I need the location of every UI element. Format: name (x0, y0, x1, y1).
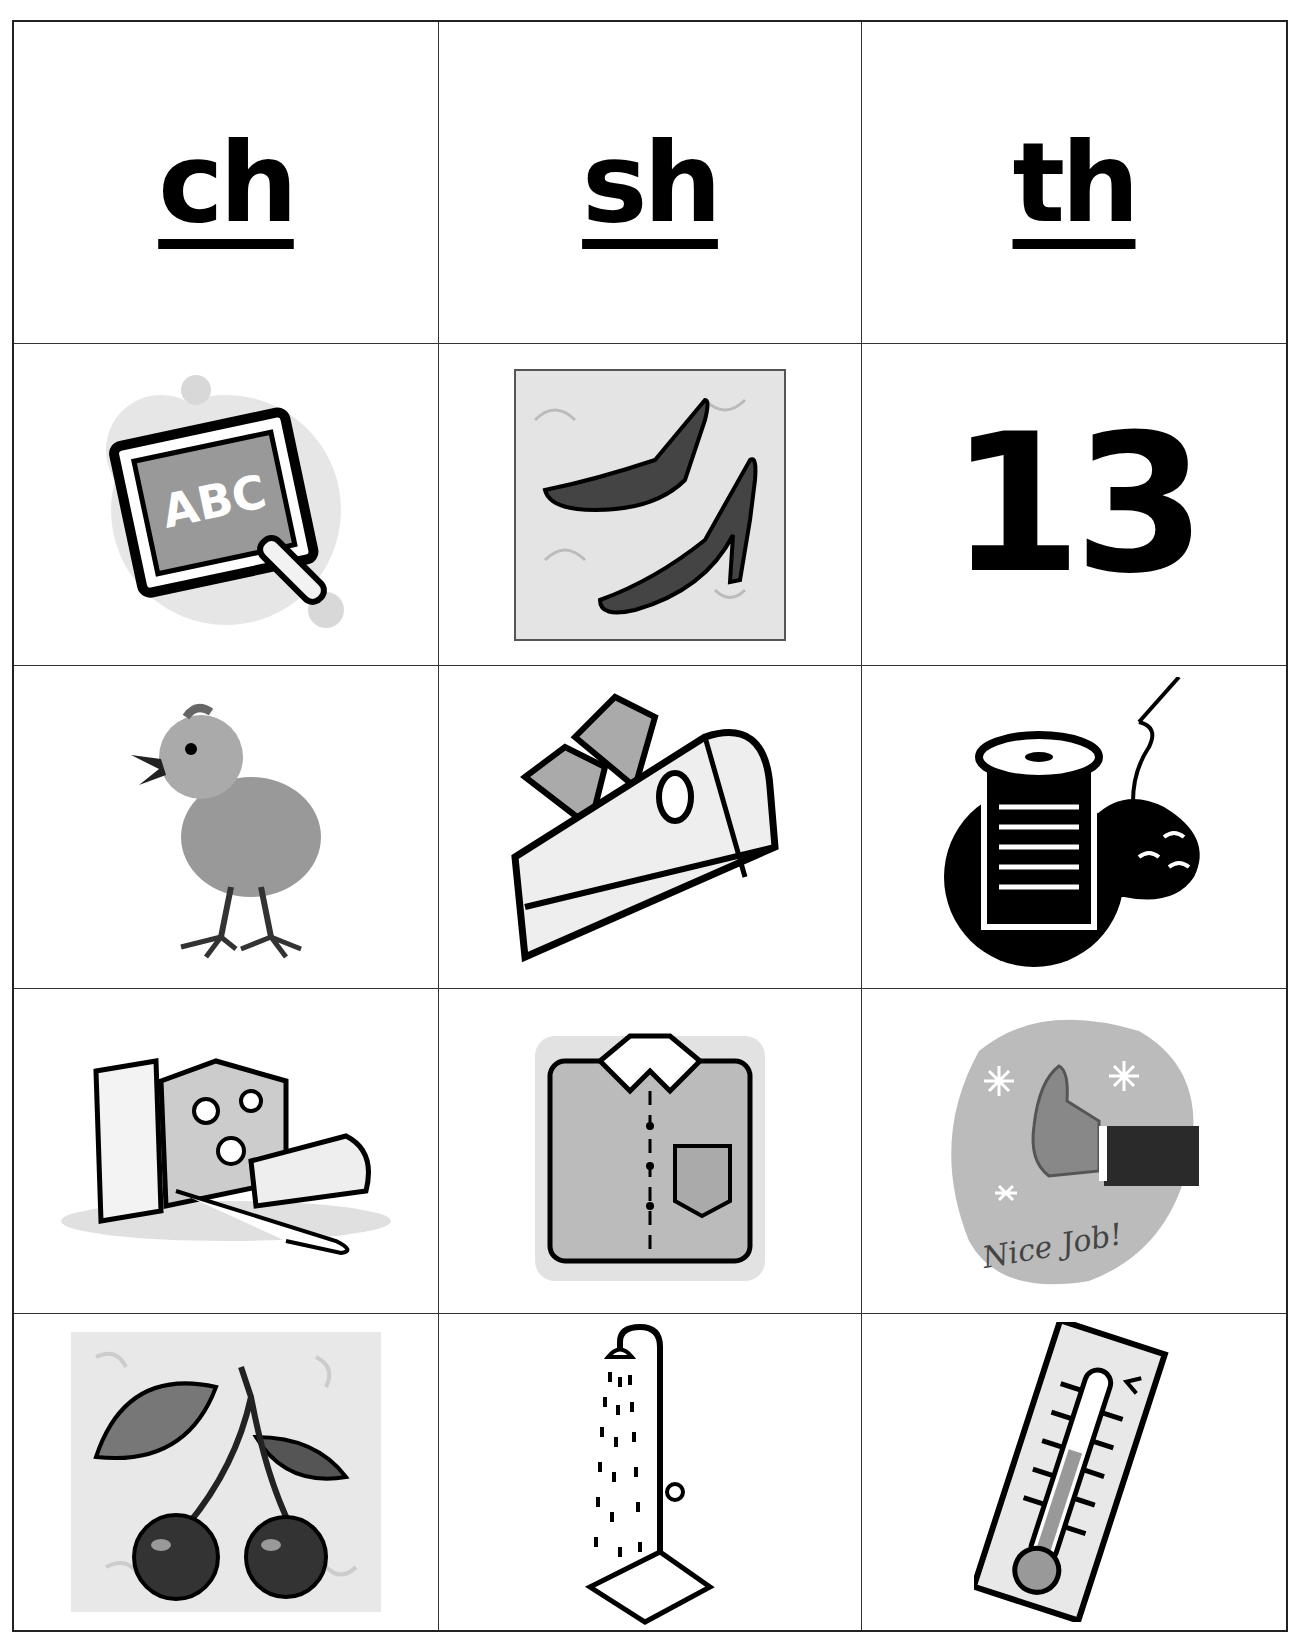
number-thirteen: 13 (950, 394, 1198, 615)
shirt-icon (530, 1016, 770, 1286)
digraph-heading-th: th (1013, 128, 1136, 238)
digraph-heading-ch: ch (158, 128, 294, 238)
picture-cell-thirteen: 13 (862, 344, 1286, 666)
picture-cell-shower (439, 1314, 862, 1630)
cherries-icon (66, 1327, 386, 1617)
thread-spool-icon (924, 677, 1224, 977)
shoes-icon (505, 360, 795, 650)
cheese-icon (56, 1041, 396, 1261)
chalkboard-icon: ABC (76, 360, 376, 650)
picture-cell-shoes (439, 344, 862, 666)
chick-icon (111, 687, 341, 967)
header-cell-th: th (862, 22, 1286, 344)
digraph-sorting-grid: ch sh th ABC 13 (12, 20, 1288, 1632)
picture-cell-shirt (439, 989, 862, 1314)
header-cell-sh: sh (439, 22, 862, 344)
picture-cell-thumbs-up: Nice Job! (862, 989, 1286, 1314)
picture-cell-thermometer (862, 1314, 1286, 1630)
ship-icon (505, 677, 795, 977)
picture-cell-thread (862, 666, 1286, 989)
picture-cell-cherries (14, 1314, 439, 1630)
picture-cell-cheese (14, 989, 439, 1314)
thermometer-icon (974, 1322, 1174, 1622)
picture-cell-chalkboard: ABC (14, 344, 439, 666)
thumbs-up-icon: Nice Job! (939, 1011, 1209, 1291)
picture-cell-chick (14, 666, 439, 989)
digraph-heading-sh: sh (582, 128, 718, 238)
shower-icon (550, 1317, 750, 1627)
header-cell-ch: ch (14, 22, 439, 344)
picture-cell-ship (439, 666, 862, 989)
